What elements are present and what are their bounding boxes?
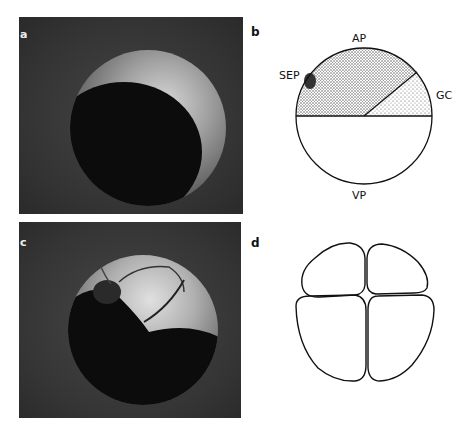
photo-panel-c: c <box>19 222 241 418</box>
panel-label-a: a <box>20 28 27 41</box>
label-gc: GC <box>436 89 452 102</box>
diagram-d <box>296 243 434 381</box>
label-vp: VP <box>352 189 366 202</box>
panel-label-d: d <box>251 236 260 250</box>
panel-label-b: b <box>251 25 260 39</box>
photo-panel-a: a <box>19 17 243 214</box>
sep-patch <box>304 73 316 89</box>
panel-label-c: c <box>20 236 27 249</box>
label-sep: SEP <box>279 69 300 82</box>
embryo-photo-c <box>19 222 241 418</box>
grey-crescent-region <box>364 72 432 116</box>
animal-pole-region <box>297 48 417 116</box>
label-ap: AP <box>352 32 366 45</box>
egg-photo-a <box>19 17 243 214</box>
